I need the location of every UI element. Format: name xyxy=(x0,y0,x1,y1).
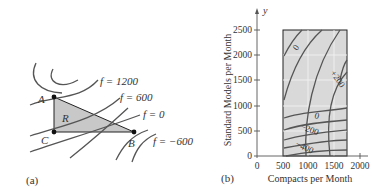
vertex-a-point xyxy=(52,95,57,100)
x-tick-1000: 1000 xyxy=(299,161,318,171)
contour-label-neg600: f = −600 xyxy=(153,135,193,147)
x-tick-labels: 0 500 1000 1500 2000 xyxy=(255,161,370,171)
x-tick-1500: 1500 xyxy=(325,161,344,171)
y-tick-2000: 2000 xyxy=(233,50,252,60)
vertex-a-label: A xyxy=(37,93,45,105)
panel-b: 0 +200 0 −200 −400 y 0 500 1000 1500 200… xyxy=(221,5,370,185)
x-tick-500: 500 xyxy=(276,161,291,171)
caption-a: (a) xyxy=(26,174,39,187)
contour-label-0: f = 0 xyxy=(143,108,165,120)
x-axis-title: Compacts per Month xyxy=(268,173,352,184)
y-tick-0: 0 xyxy=(247,151,252,161)
x-tick-0: 0 xyxy=(255,161,260,171)
y-tick-labels: 0 500 1000 1500 2000 2500 xyxy=(233,25,252,161)
caption-b: (b) xyxy=(221,172,234,185)
vertex-c-label: C xyxy=(41,134,49,146)
y-axis-title: Standard Models per Month xyxy=(222,34,233,147)
y-tick-1500: 1500 xyxy=(233,75,252,85)
y-tick-500: 500 xyxy=(238,126,253,136)
y-tick-1000: 1000 xyxy=(233,101,252,111)
figure: A B C R f = 1200 f = 600 f = 0 f = −600 … xyxy=(0,0,373,195)
contour-label-600: f = 600 xyxy=(120,91,153,103)
vertex-b-label: B xyxy=(128,137,135,149)
vertex-b-point xyxy=(132,130,137,135)
contour-label-1200: f = 1200 xyxy=(100,75,138,87)
y-axis-symbol: y xyxy=(262,5,268,16)
vertex-c-point xyxy=(52,130,57,135)
y-tick-2500: 2500 xyxy=(233,25,252,35)
x-tick-2000: 2000 xyxy=(351,161,370,171)
region-label: R xyxy=(61,112,69,124)
panel-a: A B C R f = 1200 f = 600 f = 0 f = −600 … xyxy=(26,63,193,187)
y-axis-arrow-icon xyxy=(255,8,259,14)
